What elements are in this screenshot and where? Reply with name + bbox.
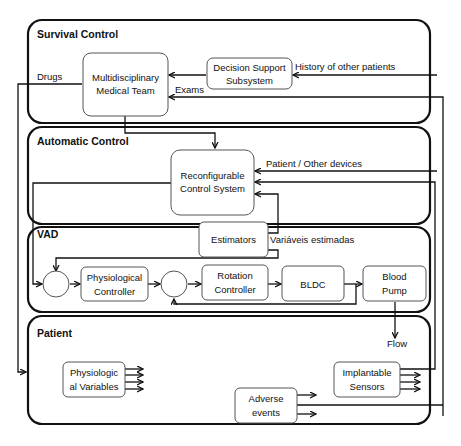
blood-pump-block: Blood Pump (363, 266, 426, 301)
reconfigurable-control-block: Reconfigurable Control System (171, 150, 254, 215)
svg-text:Pump: Pump (382, 285, 407, 296)
estimators-block: Estimators (199, 222, 268, 257)
svg-text:Controller: Controller (94, 286, 135, 297)
region-title-vad: VAD (37, 228, 59, 240)
rotation-controller-block: Rotation Controller (202, 265, 268, 300)
svg-text:Decision Support: Decision Support (213, 62, 286, 73)
estimated-vars-label: Variáveis estimadas (270, 234, 355, 245)
summing-junction-2 (161, 271, 187, 297)
svg-text:events: events (252, 407, 280, 418)
svg-text:Physiologic: Physiologic (70, 367, 118, 378)
sensor-arrows (400, 375, 420, 389)
svg-text:Blood: Blood (382, 271, 406, 282)
region-title-survival: Survival Control (37, 28, 118, 40)
svg-text:Reconfigurable: Reconfigurable (181, 170, 245, 181)
implantable-sensors-block: Implantable Sensors (334, 362, 400, 397)
svg-text:Control System: Control System (180, 183, 245, 194)
history-label: History of other patients (295, 61, 396, 72)
decision-support-block: Decision Support Subsystem (207, 58, 292, 89)
adverse-events-block: Adverse events (235, 388, 297, 423)
physiological-controller-block: Physiological Controller (81, 267, 148, 301)
medical-team-block: Multidisciplinary Medical Team (83, 53, 168, 116)
svg-text:Estimators: Estimators (211, 234, 256, 245)
svg-text:Medical Team: Medical Team (96, 85, 155, 96)
flow-label: Flow (387, 338, 407, 349)
region-title-automatic: Automatic Control (37, 135, 129, 147)
svg-text:Sensors: Sensors (350, 381, 385, 392)
physio-var-arrows (124, 369, 143, 389)
svg-text:al Variables: al Variables (70, 381, 119, 392)
bldc-block: BLDC (282, 266, 344, 301)
svg-text:Implantable: Implantable (342, 367, 391, 378)
exams-label: Exams (175, 84, 204, 95)
patient-devices-label: Patient / Other devices (266, 158, 362, 169)
region-title-patient: Patient (37, 327, 73, 339)
svg-text:Rotation: Rotation (217, 270, 252, 281)
svg-text:Physiological: Physiological (87, 272, 142, 283)
physiological-variables-block: Physiologic al Variables (63, 362, 125, 397)
svg-text:Subsystem: Subsystem (226, 75, 273, 86)
svg-text:Controller: Controller (214, 284, 255, 295)
svg-text:Multidisciplinary: Multidisciplinary (92, 72, 159, 83)
team-to-rcs-line (125, 116, 215, 148)
summing-junction-1 (43, 271, 69, 297)
svg-text:BLDC: BLDC (300, 279, 325, 290)
svg-text:Adverse: Adverse (249, 393, 284, 404)
drugs-label: Drugs (37, 71, 63, 82)
vad-control-diagram: Survival Control Automatic Control VAD P… (0, 0, 461, 446)
